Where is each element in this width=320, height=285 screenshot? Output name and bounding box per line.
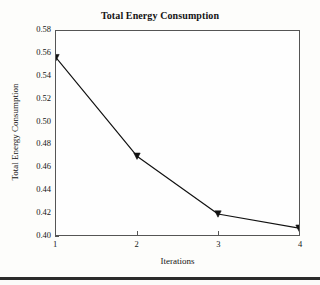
x-axis-label: Iterations (55, 256, 300, 266)
chart-title: Total Energy Consumption (0, 10, 320, 21)
x-tick-mark-3 (218, 231, 219, 236)
y-tick-label-0.56: 0.56 (18, 48, 51, 57)
y-tick-label-0.58: 0.58 (18, 25, 51, 34)
y-tick-label-0.50: 0.50 (18, 117, 51, 126)
chart-figure: Total Energy Consumption 0.400.420.440.4… (0, 0, 320, 278)
data-point-markers (56, 54, 299, 231)
scan-artifact-strip (0, 280, 320, 285)
x-tick-label-2: 2 (135, 239, 139, 249)
x-tick-mark-2 (137, 231, 138, 236)
x-tick-label-3: 3 (216, 239, 220, 249)
plot-area (55, 30, 300, 236)
y-tick-label-0.44: 0.44 (18, 185, 51, 194)
y-axis-label: Total Energy Consumption (10, 29, 20, 235)
plot-svg (56, 31, 299, 235)
x-tick-label-1: 1 (53, 239, 57, 249)
y-tick-label-0.52: 0.52 (18, 94, 51, 103)
y-tick-label-0.54: 0.54 (18, 71, 51, 80)
y-tick-label-0.40: 0.40 (18, 231, 51, 240)
chart-page: Total Energy Consumption 0.400.420.440.4… (0, 0, 320, 285)
x-tick-label-4: 4 (298, 239, 302, 249)
y-tick-label-0.48: 0.48 (18, 139, 51, 148)
data-line-series-1 (56, 58, 299, 229)
y-tick-label-0.46: 0.46 (18, 162, 51, 171)
y-tick-mark-0.40 (55, 236, 59, 237)
y-axis-tick-labels: 0.400.420.440.460.480.500.520.540.560.58 (18, 30, 51, 236)
x-axis-tick-labels: 1234 (55, 239, 300, 251)
y-tick-label-0.42: 0.42 (18, 208, 51, 217)
